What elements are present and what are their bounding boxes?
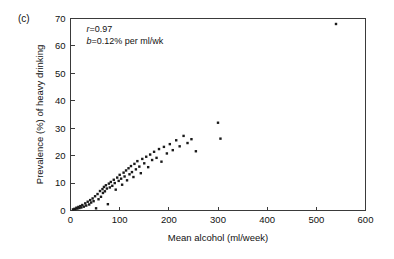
data-point (141, 158, 143, 160)
data-point (105, 184, 107, 186)
data-point (217, 122, 219, 124)
data-point (116, 176, 118, 178)
y-axis-title: Prevalence (%) of heavy drinking (34, 45, 45, 184)
y-tick-label: 0 (60, 205, 65, 216)
data-point (117, 180, 119, 182)
data-point (96, 193, 98, 195)
data-points (72, 23, 337, 211)
data-point (90, 201, 92, 203)
data-point (190, 138, 192, 140)
data-point (99, 190, 101, 192)
data-point (87, 201, 89, 203)
data-point (94, 195, 96, 197)
data-point (126, 179, 128, 181)
y-tick-label: 30 (55, 123, 66, 134)
data-point (125, 169, 127, 171)
y-tick-label: 70 (55, 13, 66, 24)
y-tick-label: 40 (55, 95, 66, 106)
data-point (143, 162, 145, 164)
data-point (182, 135, 184, 137)
data-point (149, 153, 151, 155)
figure-panel-c: (c) 0102030405060700100200300400500600 r… (0, 0, 394, 259)
data-point (130, 165, 132, 167)
data-point (111, 185, 113, 187)
data-point (123, 175, 125, 177)
scatter-plot: 0102030405060700100200300400500600 r=0.9… (0, 0, 394, 259)
annotation-line: b=0.12% per ml/wk (87, 36, 164, 46)
y-tick-label: 20 (55, 150, 66, 161)
data-point (163, 146, 165, 148)
data-point (106, 187, 108, 189)
data-point (151, 159, 153, 161)
x-tick-label: 200 (161, 214, 177, 225)
plot-frame (71, 19, 366, 211)
data-point (169, 143, 171, 145)
y-tick-label: 10 (55, 177, 66, 188)
data-point (131, 171, 133, 173)
data-point (132, 176, 134, 178)
data-point (84, 202, 86, 204)
y-tick-label: 50 (55, 68, 66, 79)
data-point (100, 196, 102, 198)
data-point (114, 182, 116, 184)
data-point (195, 150, 197, 152)
data-point (122, 171, 124, 173)
data-point (135, 168, 137, 170)
data-point (91, 197, 93, 199)
data-point (186, 142, 188, 144)
data-point (158, 148, 160, 150)
data-point (120, 177, 122, 179)
y-tick-label: 60 (55, 40, 66, 51)
data-point (83, 205, 85, 207)
data-point (101, 188, 103, 190)
data-point (166, 152, 168, 154)
x-tick-label: 500 (308, 214, 324, 225)
x-axis-title: Mean alcohol (ml/week) (168, 232, 268, 243)
data-point (335, 23, 337, 25)
data-point (104, 190, 106, 192)
annotation-line: r=0.97 (87, 24, 113, 34)
data-point (110, 181, 112, 183)
x-tick-label: 0 (68, 214, 73, 225)
data-point (80, 206, 82, 208)
data-point (138, 165, 140, 167)
data-point (92, 200, 94, 202)
data-point (115, 188, 117, 190)
data-point (97, 198, 99, 200)
data-point (155, 157, 157, 159)
data-point (140, 172, 142, 174)
data-point (89, 199, 91, 201)
data-point (128, 173, 130, 175)
x-tick-label: 600 (358, 214, 374, 225)
data-point (147, 166, 149, 168)
data-point (85, 204, 87, 206)
stat-annotation: r=0.97b=0.12% per ml/wk (87, 24, 164, 46)
data-point (175, 139, 177, 141)
data-point (172, 149, 174, 151)
x-tick-label: 100 (112, 214, 128, 225)
data-point (219, 137, 221, 139)
data-point (118, 174, 120, 176)
data-point (113, 179, 115, 181)
data-point (107, 203, 109, 205)
data-point (109, 186, 111, 188)
data-point (136, 160, 138, 162)
data-point (127, 167, 129, 169)
x-tick-label: 400 (259, 214, 275, 225)
data-point (160, 160, 162, 162)
data-point (95, 207, 97, 209)
axes (71, 19, 366, 211)
data-point (121, 184, 123, 186)
data-point (153, 151, 155, 153)
data-point (133, 163, 135, 165)
axis-ticks (71, 19, 366, 211)
data-point (178, 145, 180, 147)
data-point (145, 156, 147, 158)
x-tick-label: 300 (210, 214, 226, 225)
